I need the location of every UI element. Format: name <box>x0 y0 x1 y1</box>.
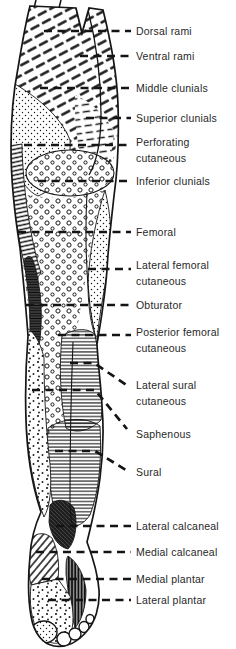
label-medial-plantar: Medial plantar <box>136 572 234 588</box>
label-superior-clunials: Superior clunials <box>136 111 234 127</box>
label-femoral: Femoral <box>136 225 234 241</box>
label-inferior-clunials: Inferior clunials <box>136 174 234 190</box>
label-lateral-calcaneal: Lateral calcaneal <box>136 519 234 535</box>
label-saphenous: Saphenous <box>136 427 234 443</box>
label-sural: Sural <box>136 465 234 481</box>
label-perforating-cutaneous: Perforating cutaneous <box>136 135 234 166</box>
label-ventral-rami: Ventral rami <box>136 49 234 65</box>
label-lateral-plantar: Lateral plantar <box>136 593 234 609</box>
label-medial-calcaneal: Medial calcaneal <box>136 545 234 561</box>
label-obturator: Obturator <box>136 298 234 314</box>
label-dorsal-rami: Dorsal rami <box>136 24 234 40</box>
label-middle-clunials: Middle clunials <box>136 81 234 97</box>
label-lateral-sural-cutaneous: Lateral sural cutaneous <box>136 378 234 409</box>
figure: Dorsal rami Ventral rami Middle clunials… <box>0 0 236 649</box>
region-inferior-clunials <box>26 150 114 196</box>
label-posterior-femoral-cutaneous: Posterior femoral cutaneous <box>136 325 234 356</box>
label-lateral-femoral-cutaneous: Lateral femoral cutaneous <box>136 258 234 289</box>
